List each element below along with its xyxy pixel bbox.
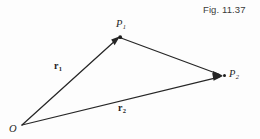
point-label-origin: O [9,124,17,135]
vector-label-r2: r2 [118,103,126,113]
vector-label-r1-subscript: 1 [59,65,62,72]
figure-container: Fig. 11.37 P1 P2 O r1 r2 [0,0,260,139]
point-label-p1: P1 [116,19,126,30]
segment-p1-p2-group [121,38,223,79]
vector-diagram-canvas [0,0,260,139]
point-p2-dot [223,74,226,77]
vector-label-r2-subscript: 2 [123,107,126,114]
point-p1-dot [118,35,122,39]
point-label-p2: P2 [229,69,239,80]
point-label-p2-subscript: 2 [236,73,239,80]
point-label-p2-base: P [229,68,235,79]
vector-label-r2-base: r [118,102,122,113]
vector-r2-group [22,73,223,125]
vector-label-r1: r1 [54,61,62,71]
vector-r1-line [22,39,118,126]
segment-p1-p2-line [121,38,220,75]
vector-r1-group [22,36,120,125]
figure-caption: Fig. 11.37 [203,5,246,15]
point-label-p1-base: P [116,18,122,29]
vector-label-r1-base: r [54,60,58,71]
point-label-p1-subscript: 1 [123,23,126,30]
